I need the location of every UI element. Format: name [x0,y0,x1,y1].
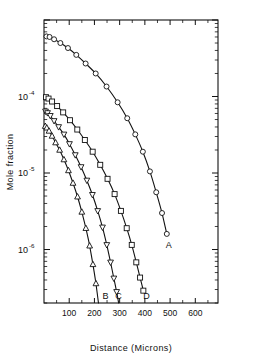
x-tick-label: 400 [138,308,152,318]
marker-d [124,226,129,231]
marker-a [125,116,130,121]
marker-b [70,180,76,185]
y-axis-ticks [44,20,218,303]
marker-a [83,61,88,66]
curve-labels: ADCB [102,240,171,301]
svg-text:-6: -6 [29,242,35,249]
y-tick-label: 10-4 [18,89,35,102]
x-tick-label: 100 [62,308,76,318]
marker-d [134,260,139,265]
marker-c [90,192,96,197]
marker-d [82,138,87,143]
marker-b [79,209,85,214]
y-tick-label: 10-6 [18,242,35,255]
chart-canvas: 100200300400500600 10-410-510-6 ADCB Dis… [0,0,262,358]
marker-a [147,169,152,174]
x-tick-label: 300 [113,308,127,318]
svg-text:10: 10 [18,245,28,255]
x-axis-title: Distance (Microns) [90,343,172,353]
data-markers [42,34,169,295]
marker-b [66,167,72,172]
x-tick-label: 500 [163,308,177,318]
marker-c [78,165,84,170]
marker-a [164,231,169,236]
marker-a [104,84,109,89]
marker-d [138,275,143,280]
marker-b [53,139,59,144]
plot-frame [44,20,218,303]
marker-d [129,242,134,247]
marker-a [160,211,165,216]
marker-d [75,127,80,132]
marker-d [90,149,95,154]
curve-label-c: C [115,291,122,301]
x-axis-tick-labels: 100200300400500600 [62,308,203,318]
svg-text:-4: -4 [29,89,35,96]
marker-d [55,104,60,109]
marker-b [57,147,63,152]
marker-b [87,243,93,248]
diffusion-profile-chart: 100200300400500600 10-410-510-6 ADCB Dis… [0,0,262,358]
x-tick-label: 600 [188,308,202,318]
curve-label-a: A [166,240,172,250]
marker-d [105,176,110,181]
marker-c [84,178,90,183]
curve-label-b: B [102,291,108,301]
marker-d [61,110,66,115]
marker-a [65,46,70,51]
marker-b [90,261,96,266]
marker-c [108,260,114,265]
y-axis-tick-labels: 10-410-510-6 [18,89,35,255]
svg-text:10: 10 [18,168,28,178]
marker-c [72,153,78,158]
marker-b [75,194,81,199]
svg-text:10: 10 [18,92,28,102]
marker-b [93,280,99,285]
marker-d [112,192,117,197]
marker-d [118,208,123,213]
marker-c [111,276,117,281]
marker-b [83,225,89,230]
curve-label-d: D [143,291,150,301]
marker-a [58,41,63,46]
marker-a [133,132,138,137]
marker-a [52,37,57,42]
marker-d [67,118,72,123]
marker-d [98,162,103,167]
svg-text:-5: -5 [29,165,35,172]
marker-a [140,149,145,154]
marker-a [93,71,98,76]
marker-a [74,52,79,57]
marker-b [49,133,55,138]
x-tick-label: 200 [87,308,101,318]
x-axis-ticks [57,20,208,303]
marker-a [154,190,159,195]
marker-a [115,100,120,105]
marker-b [61,156,67,161]
marker-c [95,209,101,214]
y-tick-label: 10-5 [18,165,35,178]
marker-c [100,225,106,230]
marker-d [50,99,55,104]
y-axis-title: Mole fraction [5,134,15,191]
marker-c [104,243,110,248]
marker-c [67,142,73,147]
